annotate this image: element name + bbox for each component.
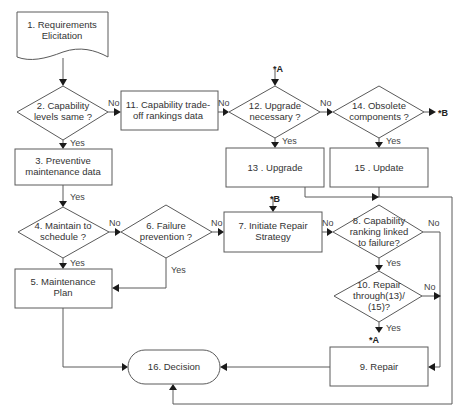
arrow-icon (59, 263, 67, 269)
connector-a-out: *A (369, 335, 380, 345)
label-4-no: No (109, 218, 121, 228)
label-6-yes: Yes (171, 265, 186, 275)
edge-6-5 (117, 258, 166, 288)
node-14-obsolete-components[interactable]: 14. Obsolete components ? (333, 86, 424, 138)
node-13-line-1: 13 . Upgrade (248, 162, 303, 173)
arrow-icon (271, 142, 279, 148)
node-5-line-2: Plan (53, 287, 72, 298)
node-10-repair-through[interactable]: 10. Repair through(13)/ (15)? (334, 271, 422, 322)
node-1-line-1: 1. Requirements (27, 19, 97, 30)
node-8-line-1: 8. Capability (353, 215, 406, 226)
node-2-line-1: 2. Capability (37, 100, 90, 111)
label-2-no: No (108, 98, 120, 108)
arrow-icon (59, 79, 67, 86)
node-11-line-2: off rankings data (133, 110, 204, 121)
node-2-line-2: levels same ? (34, 111, 92, 122)
node-6-line-1: 6. Failure (146, 220, 186, 231)
connector-b-out: *B (438, 108, 449, 118)
edge-5-16 (63, 308, 123, 367)
node-11-line-1: 11. Capability trade- (126, 99, 210, 110)
node-12-upgrade-necessary[interactable]: 12. Upgrade necessary ? (229, 86, 320, 138)
arrow-icon (271, 79, 279, 86)
node-7-line-1: 7. Initiate Repair (238, 220, 307, 231)
arrow-icon (169, 384, 177, 390)
connector-a-in: *A (273, 64, 284, 74)
arrow-icon (429, 108, 436, 116)
arrow-icon (59, 201, 67, 207)
node-10-line-1: 10. Repair (357, 279, 401, 290)
arrow-icon (220, 363, 227, 371)
label-10-yes: Yes (386, 323, 401, 333)
node-9-repair[interactable]: 9. Repair (330, 347, 428, 386)
node-4-maintain-to-schedule[interactable]: 4. Maintain to schedule ? (18, 207, 109, 258)
node-15-line-1: 15 . Update (354, 162, 403, 173)
node-8-line-2: ranking linked (350, 226, 409, 237)
arrow-icon (375, 327, 383, 333)
label-8-no: No (428, 218, 440, 228)
node-16-line-1: 16. Decision (148, 361, 200, 372)
label-4-yes: Yes (70, 258, 85, 268)
node-5-line-1: 5. Maintenance (31, 276, 96, 287)
node-12-line-1: 12. Upgrade (249, 100, 301, 111)
node-4-line-1: 4. Maintain to (34, 220, 91, 231)
node-6-line-2: prevention ? (140, 231, 192, 242)
node-9-line-1: 9. Repair (360, 361, 399, 372)
node-5-maintenance-plan[interactable]: 5. Maintenance Plan (15, 269, 112, 308)
arrow-icon (269, 206, 277, 212)
node-8-line-3: to failure? (358, 237, 400, 248)
arrow-icon (112, 284, 119, 292)
flowchart-canvas: 1. Requirements Elicitation 2. Capabilit… (0, 0, 467, 419)
arrow-icon (59, 143, 67, 149)
arrow-icon (375, 265, 383, 271)
arrow-icon (375, 142, 383, 148)
node-6-failure-prevention[interactable]: 6. Failure prevention ? (121, 205, 212, 258)
node-2-capability-levels-same[interactable]: 2. Capability levels same ? (17, 86, 108, 140)
node-1-line-2: Elicitation (42, 30, 83, 41)
node-11-capability-tradeoff[interactable]: 11. Capability trade- off rankings data (121, 91, 218, 130)
node-4-line-2: schedule ? (40, 231, 86, 242)
label-12-yes: Yes (282, 136, 297, 146)
node-7-initiate-repair-strategy[interactable]: 7. Initiate Repair Strategy (224, 212, 322, 252)
label-11-no: No (218, 98, 230, 108)
label-14-yes: Yes (386, 136, 401, 146)
node-3-preventive-maintenance[interactable]: 3. Preventive maintenance data (15, 149, 112, 185)
node-14-line-1: 14. Obsolete (352, 100, 406, 111)
node-3-line-1: 3. Preventive (35, 155, 90, 166)
arrow-icon (114, 108, 121, 116)
node-8-capability-ranking-linked[interactable]: 8. Capability ranking linked to failure? (333, 205, 423, 258)
label-10-no: No (424, 282, 436, 292)
label-2-yes: Yes (70, 138, 85, 148)
label-7-no: No (322, 218, 334, 228)
node-12-line-2: necessary ? (249, 111, 300, 122)
node-14-line-2: components ? (349, 111, 409, 122)
node-13-upgrade[interactable]: 13 . Upgrade (226, 148, 324, 187)
arrow-icon (372, 193, 379, 201)
arrow-icon (122, 363, 128, 371)
node-10-line-3: (15)? (368, 301, 390, 312)
node-15-update[interactable]: 15 . Update (330, 148, 428, 187)
label-3-yes: Yes (70, 192, 85, 202)
arrow-icon (428, 363, 435, 371)
node-7-line-2: Strategy (255, 231, 291, 242)
arrow-icon (218, 228, 224, 236)
node-1-requirements-elicitation[interactable]: 1. Requirements Elicitation (17, 12, 108, 59)
node-16-decision[interactable]: 16. Decision (128, 350, 220, 384)
connector-b-in: *B (270, 194, 281, 204)
node-10-line-2: through(13)/ (353, 290, 405, 301)
node-3-line-2: maintenance data (25, 166, 101, 177)
label-8-yes: Yes (386, 258, 401, 268)
label-6-no: No (211, 218, 223, 228)
label-12-no: No (320, 98, 332, 108)
